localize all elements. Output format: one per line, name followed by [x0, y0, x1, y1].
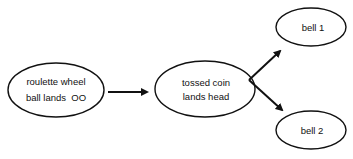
node-bell1-label: bell 1 [302, 22, 325, 33]
causal-diagram: roulette wheel ball lands OO tossed coin… [0, 0, 353, 159]
arrow-coin-to-bell1 [249, 51, 280, 80]
node-bell1: bell 1 [276, 8, 346, 46]
node-bell2: bell 2 [276, 111, 346, 149]
node-roulette: roulette wheel ball lands OO [8, 63, 104, 117]
node-bell2-label: bell 2 [301, 125, 324, 136]
node-coin-line2: lands head [183, 91, 229, 102]
node-roulette-line2: ball lands OO [26, 92, 86, 103]
node-coin: tossed coin lands head [155, 61, 255, 117]
node-roulette-line1: roulette wheel [26, 76, 85, 87]
node-coin-line1: tossed coin [182, 77, 230, 88]
